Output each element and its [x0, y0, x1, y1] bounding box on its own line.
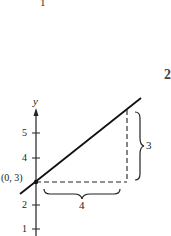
- tick-label-5: 5: [22, 128, 27, 138]
- point-label: (0, 3): [1, 173, 23, 183]
- rise-label: 3: [146, 140, 152, 151]
- rise-brace-icon: [135, 112, 144, 180]
- run-brace-icon: [44, 189, 120, 199]
- fragment-top-left: 1: [40, 0, 46, 8]
- tick-label-1: 1: [22, 224, 27, 234]
- y-axis-label: y: [33, 96, 38, 107]
- tick-label-2: 2: [22, 200, 27, 210]
- run-label: 4: [79, 200, 85, 211]
- tick-label-4: 4: [22, 153, 27, 163]
- graph-line: [20, 98, 141, 194]
- fragment-right-edge: 2: [164, 68, 171, 82]
- y-axis-arrow-icon: [34, 108, 39, 116]
